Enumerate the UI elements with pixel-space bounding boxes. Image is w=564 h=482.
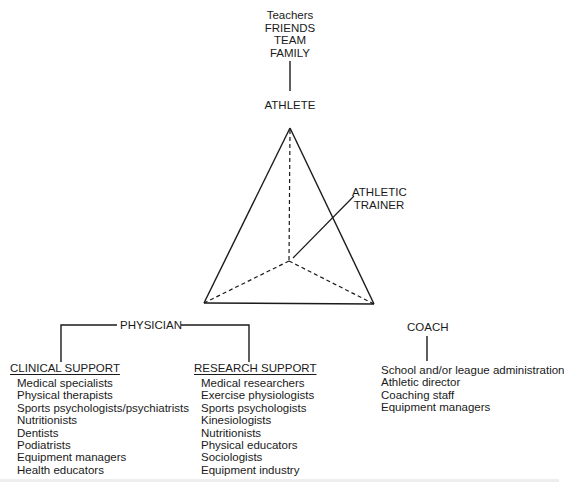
list-item: Equipment industry: [201, 464, 314, 476]
tetra-hidden-edge-right: [289, 261, 374, 304]
physician-node-label: PHYSICIAN: [120, 319, 182, 331]
athletic-trainer-label-line: TRAINER: [352, 199, 406, 212]
athletic-trainer-node-label: ATHLETIC TRAINER: [352, 186, 406, 212]
list-item: Dentists: [17, 427, 189, 439]
list-item: School and/or league administration: [381, 364, 564, 376]
athletic-trainer-pointer: [293, 196, 354, 258]
support-group-item: FAMILY: [250, 47, 330, 60]
physician-bracket-left: [61, 325, 117, 362]
list-item: Medical specialists: [17, 377, 189, 389]
athletic-trainer-label-line: ATHLETIC: [352, 186, 406, 199]
list-item: Exercise physiologists: [201, 389, 314, 401]
list-item: Nutritionists: [201, 427, 314, 439]
list-item: Athletic director: [381, 376, 564, 388]
support-group-item: FRIENDS: [250, 22, 330, 35]
list-item: Nutritionists: [17, 414, 189, 426]
list-item: Sports psychologists: [201, 402, 314, 414]
list-item: Podiatrists: [17, 439, 189, 451]
support-group-top: Teachers FRIENDS TEAM FAMILY: [250, 9, 330, 59]
clinical-support-list: Medical specialists Physical therapists …: [17, 377, 189, 476]
list-item: Kinesiologists: [201, 414, 314, 426]
tetra-edge-base: [204, 303, 374, 304]
coach-node-label: COACH: [407, 321, 449, 333]
athlete-node-label: ATHLETE: [250, 99, 330, 111]
support-group-item: TEAM: [250, 34, 330, 47]
list-item: Sociologists: [201, 451, 314, 463]
tetra-edge-left: [204, 128, 290, 303]
list-item: Medical researchers: [201, 377, 314, 389]
list-item: Health educators: [17, 464, 189, 476]
list-item: Physical therapists: [17, 389, 189, 401]
tetra-hidden-edge-left: [204, 261, 289, 303]
list-item: Physical educators: [201, 439, 314, 451]
list-item: Equipment managers: [17, 451, 189, 463]
clinical-support-heading: CLINICAL SUPPORT: [10, 362, 120, 374]
list-item: Coaching staff: [381, 389, 564, 401]
list-item: Equipment managers: [381, 401, 564, 413]
coach-support-list: School and/or league administration Athl…: [381, 364, 564, 414]
tetra-hidden-edge-vertical: [289, 130, 290, 261]
research-support-heading: RESEARCH SUPPORT: [194, 362, 316, 374]
physician-bracket-right: [181, 325, 249, 362]
tetra-edge-right: [290, 128, 374, 304]
list-item: Sports psychologists/psychiatrists: [17, 402, 189, 414]
research-support-list: Medical researchers Exercise physiologis…: [201, 377, 314, 476]
support-group-item: Teachers: [250, 9, 330, 22]
